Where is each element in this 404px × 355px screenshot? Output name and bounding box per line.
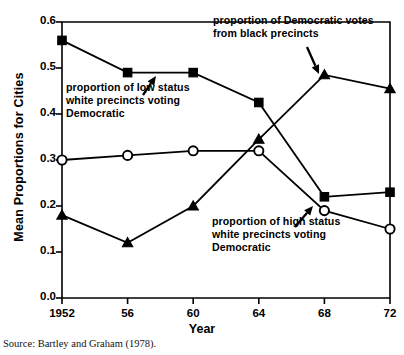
y-tick-label: 0.4 — [24, 106, 56, 118]
annotation-low-status-line3: Democratic — [66, 107, 190, 120]
marker-filled-triangle — [319, 70, 329, 79]
marker-filled-square — [123, 68, 131, 76]
annotation-low-status: proportion of low status white precincts… — [66, 81, 190, 121]
marker-open-circle — [189, 146, 198, 155]
annotation-black-precincts-line2: from black precincts — [213, 27, 374, 40]
y-tick-label: 0.3 — [24, 152, 56, 164]
arrow-black-precincts-shaft — [307, 47, 315, 66]
marker-filled-square — [255, 98, 263, 106]
y-tick-label: 0.2 — [24, 198, 56, 210]
marker-open-circle — [57, 155, 66, 164]
annotation-high-status-line1: proportion of high status — [212, 215, 340, 228]
y-tick-label: 0.0 — [24, 290, 56, 302]
y-tick-label: 0.1 — [24, 244, 56, 256]
x-tick-label: 60 — [168, 307, 218, 319]
marker-filled-square — [320, 193, 328, 201]
chart-svg — [0, 0, 404, 355]
y-tick-label: 0.6 — [24, 14, 56, 26]
x-tick-label: 64 — [234, 307, 284, 319]
annotation-low-status-line2: white precincts voting — [66, 94, 190, 107]
annotation-high-status: proportion of high status white precinct… — [212, 215, 340, 255]
marker-open-circle — [254, 146, 263, 155]
series-lines — [62, 40, 390, 242]
annotation-arrows — [143, 47, 319, 227]
marker-filled-square — [58, 36, 66, 44]
annotation-black-precincts-line1: proportion of Democratic votes — [213, 14, 374, 27]
marker-filled-square — [189, 68, 197, 76]
marker-open-circle — [123, 151, 132, 160]
annotation-high-status-line3: Democratic — [212, 241, 340, 254]
y-tick-label: 0.5 — [24, 60, 56, 72]
marker-open-circle — [385, 224, 394, 233]
annotation-high-status-line2: white precincts voting — [212, 228, 340, 241]
x-tick-label: 56 — [103, 307, 153, 319]
annotation-low-status-line1: proportion of low status — [66, 81, 190, 94]
x-tick-label: 72 — [365, 307, 404, 319]
x-axis-ticks — [62, 298, 390, 304]
annotation-black-precincts: proportion of Democratic votes from blac… — [213, 14, 374, 40]
marker-filled-square — [386, 188, 394, 196]
marker-open-circle — [320, 206, 329, 215]
x-tick-label: 1952 — [37, 307, 87, 319]
plot-frame — [62, 22, 390, 298]
x-tick-label: 68 — [299, 307, 349, 319]
marker-filled-triangle — [57, 210, 67, 219]
